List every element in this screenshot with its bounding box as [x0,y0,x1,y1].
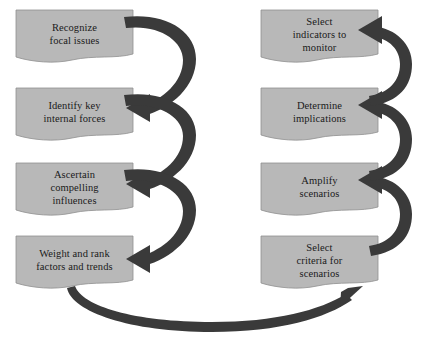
node-recognize-focal-issues [16,10,133,62]
right-column-boxes [261,10,378,288]
flow-diagram-canvas [0,0,424,341]
process-flow-diagram: Recognize focal issues Identify key inte… [0,0,424,341]
node-amplify-scenarios [261,163,378,215]
connector-bottom-feedback [67,286,363,332]
left-column-boxes [16,10,133,288]
node-select-criteria-for-scenarios [261,236,378,288]
node-weight-and-rank-factors-and-trends [16,236,133,288]
node-select-indicators-to-monitor [261,10,378,62]
node-determine-implications [261,88,378,140]
node-identify-key-internal-forces [16,88,133,140]
node-ascertain-compelling-influences [16,163,133,215]
